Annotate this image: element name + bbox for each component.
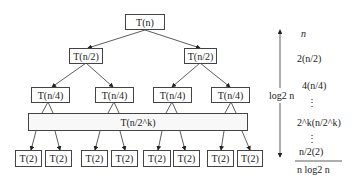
- node-level2-4: T(n/4): [211, 87, 250, 103]
- ellipsis-1: ⋮: [307, 97, 317, 108]
- leaf-node: T(2): [111, 150, 138, 167]
- node-label: T(2): [212, 153, 230, 164]
- node-level1-right: T(n/2): [184, 48, 217, 64]
- node-label: T(n/4): [102, 90, 128, 101]
- node-label: T(n/4): [38, 90, 64, 101]
- node-level2-2: T(n/4): [95, 87, 134, 103]
- node-label: T(2): [50, 153, 68, 164]
- leaf-node: T(2): [45, 150, 72, 167]
- ellipsis-2: ⋮: [307, 133, 317, 144]
- leaf-node: T(2): [207, 150, 234, 167]
- node-label: T(2): [241, 153, 259, 164]
- node-label: T(n/2): [188, 51, 214, 62]
- leaf-node: T(2): [173, 150, 200, 167]
- node-label: T(2): [148, 153, 166, 164]
- leaf-node: T(2): [143, 150, 171, 167]
- node-label: T(2): [86, 153, 104, 164]
- level-cost-2: 4(n/4): [302, 80, 326, 91]
- node-label: T(n/2^k): [120, 117, 155, 128]
- node-label: T(2): [116, 153, 134, 164]
- level-cost-0: n: [301, 28, 306, 39]
- node-level2-3: T(n/4): [153, 87, 192, 103]
- node-level1-left: T(n/2): [69, 48, 103, 64]
- node-label: T(2): [20, 153, 38, 164]
- leaf-node: T(2): [15, 150, 42, 167]
- total-cost: n log2 n: [297, 164, 330, 175]
- level-cost-1: 2(n/2): [297, 53, 321, 64]
- node-label: T(n): [136, 17, 154, 28]
- node-label: T(n/4): [218, 90, 244, 101]
- node-level2-1: T(n/4): [31, 87, 70, 103]
- node-root: T(n): [125, 14, 165, 30]
- node-level-k: T(n/2^k): [28, 113, 248, 131]
- node-label: T(n/4): [160, 90, 186, 101]
- height-label: log2 n: [269, 90, 294, 101]
- leaf-node: T(2): [237, 150, 263, 167]
- level-cost-leaves: n/2(2): [299, 146, 323, 157]
- leaf-node: T(2): [81, 150, 108, 167]
- node-label: T(2): [178, 153, 196, 164]
- level-cost-k: 2^k(n/2^k): [297, 117, 341, 128]
- node-label: T(n/2): [73, 51, 99, 62]
